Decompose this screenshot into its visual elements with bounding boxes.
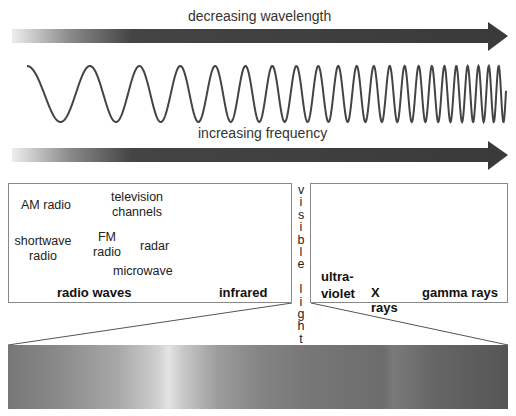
top-arrow-label: decreasing wavelength	[188, 8, 331, 24]
region-title-radio-waves: radio waves	[57, 285, 131, 300]
region-visible-light: visiblelight	[294, 184, 308, 345]
label-fm-radio: FMradio	[89, 230, 125, 260]
bottom-arrow-label: increasing frequency	[198, 125, 327, 141]
region-ultraviolet: ultra-violet	[310, 183, 369, 303]
visible-spectrum-bar	[8, 345, 508, 409]
label-radar: radar	[140, 239, 169, 254]
chirp-wave	[27, 66, 506, 122]
region-x-rays: X rays	[368, 183, 411, 303]
label-television-channels: televisionchannels	[105, 190, 169, 220]
region-radio-waves: AM radio televisionchannels shortwaverad…	[8, 183, 190, 303]
decreasing-wavelength-arrow	[12, 22, 508, 51]
label-shortwave-radio: shortwaveradio	[11, 234, 75, 264]
label-microwave: microwave	[113, 264, 173, 279]
region-title-x-rays: X rays	[371, 285, 410, 315]
region-title-ultraviolet: ultra-violet	[321, 268, 355, 302]
increasing-frequency-arrow	[12, 141, 508, 170]
region-infrared: infrared	[189, 183, 292, 303]
label-am-radio: AM radio	[21, 198, 71, 213]
region-gamma-rays: gamma rays	[410, 183, 508, 303]
region-title-infrared: infrared	[219, 285, 267, 300]
region-title-gamma-rays: gamma rays	[422, 285, 498, 300]
